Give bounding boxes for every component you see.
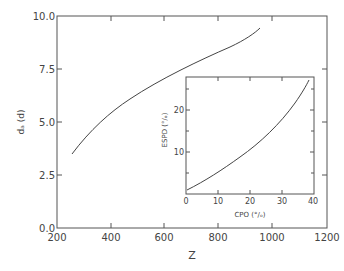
y-tick: 2.5: [39, 170, 55, 181]
x-tick: 400: [101, 232, 120, 243]
inset-x-tick: 0: [183, 197, 188, 206]
inset-y-tick: 20: [174, 106, 184, 115]
inset-axes-frame: [186, 77, 314, 194]
y-tick: 5.0: [39, 117, 55, 128]
y-tick: 10.0: [33, 11, 55, 22]
y-tick: 7.5: [39, 64, 55, 75]
x-tick: 1000: [259, 232, 284, 243]
x-axis-label: Z: [188, 249, 196, 262]
inset-x-tick: 30: [277, 197, 287, 206]
inset-plot: [186, 77, 314, 194]
inset-x-tick: 20: [245, 197, 255, 206]
x-tick: 1200: [314, 232, 339, 243]
inset-y-axis-label: ESPD (°/ₒ): [161, 112, 169, 147]
inset-x-tick: 40: [308, 197, 318, 206]
x-tick: 600: [154, 232, 173, 243]
inset-y-tick: 10: [174, 148, 184, 157]
inset-x-tick: 10: [213, 197, 223, 206]
inset-x-axis-label: CPO (°/ₒ): [234, 211, 265, 219]
y-axis-label: dₐ (d): [16, 110, 26, 135]
chart: 200 400 600 800 1000 1200 0.0 2.5 5.0 7.…: [0, 0, 344, 271]
x-tick: 800: [208, 232, 227, 243]
y-tick: 0.0: [39, 223, 55, 234]
